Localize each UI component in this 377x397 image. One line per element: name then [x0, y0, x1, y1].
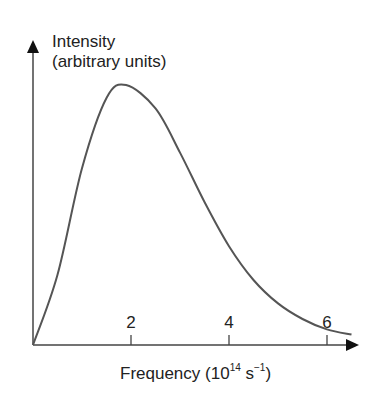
x-ticks	[131, 335, 327, 345]
x-label-unit: s	[241, 364, 254, 383]
x-tick-label: 6	[322, 313, 331, 333]
x-tick-label: 4	[224, 313, 233, 333]
y-axis-label: Intensity (arbitrary units)	[52, 32, 166, 72]
y-label-line-2: (arbitrary units)	[52, 52, 166, 72]
x-tick-label: 2	[126, 313, 135, 333]
intensity-curve	[33, 84, 352, 345]
x-label-exp: 14	[230, 362, 241, 373]
x-label-main: Frequency (10	[120, 364, 230, 383]
y-label-line-1: Intensity	[52, 32, 166, 52]
x-axis-label: Frequency (1014 s−1)	[120, 358, 271, 384]
x-axis-arrow-icon	[346, 339, 359, 351]
y-axis-arrow-icon	[27, 40, 39, 53]
x-label-unit-exp: −1	[254, 362, 265, 373]
x-label-close: )	[265, 364, 271, 383]
